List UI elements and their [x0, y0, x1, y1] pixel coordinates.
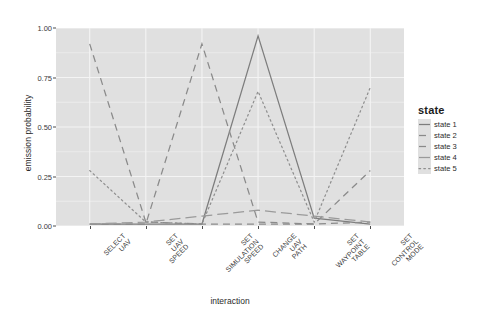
legend: state state 1state 2state 3state 4state … [418, 104, 457, 174]
x-tick-label: SETWAYPOINTTABLE [329, 232, 372, 275]
legend-item-label: state 3 [434, 142, 457, 151]
legend-item-4[interactable]: state 4 [418, 152, 457, 163]
x-tick-mark [146, 226, 147, 229]
series-line-1 [90, 36, 371, 224]
legend-item-3[interactable]: state 3 [418, 141, 457, 152]
legend-item-label: state 5 [434, 164, 457, 173]
legend-item-1[interactable]: state 1 [418, 119, 457, 130]
legend-key-line-icon [418, 141, 431, 152]
legend-items: state 1state 2state 3state 4state 5 [418, 119, 457, 174]
x-tick-mark [202, 226, 203, 229]
x-axis: SELECTUAVSETUAVSPEEDSETSIMULATIONSPEEDCH… [56, 226, 404, 296]
legend-item-label: state 1 [434, 120, 457, 129]
plot-panel [56, 28, 404, 226]
y-tick-label: 0.75 [26, 73, 52, 82]
y-tick-label: 0.00 [26, 222, 52, 231]
legend-key-line-icon [418, 163, 431, 174]
y-tick-label: 0.50 [26, 123, 52, 132]
legend-key-line-icon [418, 119, 431, 130]
legend-key-line-icon [418, 152, 431, 163]
x-tick-mark [314, 226, 315, 229]
y-tick-label: 1.00 [26, 24, 52, 33]
x-tick-mark [258, 226, 259, 229]
legend-item-5[interactable]: state 5 [418, 163, 457, 174]
x-axis-title: interaction [56, 296, 404, 306]
y-axis: 0.000.250.500.751.00 [0, 0, 52, 318]
y-tick-label: 0.25 [26, 172, 52, 181]
x-tick-label: SETCONTROLMODE [385, 232, 426, 273]
x-tick-label: SELECTUAV [102, 232, 132, 262]
x-tick-label: CHANGEUAVPATH [271, 232, 309, 270]
x-tick-label: SETSIMULATIONSPEED [219, 232, 266, 279]
chart-figure: emission probability 0.000.250.500.751.0… [0, 0, 480, 318]
x-tick-label: SETUAVSPEED [157, 232, 190, 265]
series-line-4 [90, 210, 371, 224]
series-line-3 [90, 44, 371, 224]
x-tick-mark [90, 226, 91, 229]
legend-key-line-icon [418, 130, 431, 141]
plot-lines [56, 28, 404, 226]
series-line-5 [90, 87, 371, 224]
legend-item-label: state 4 [434, 153, 457, 162]
legend-title: state [418, 104, 457, 116]
legend-item-label: state 2 [434, 131, 457, 140]
x-tick-mark [370, 226, 371, 229]
legend-item-2[interactable]: state 2 [418, 130, 457, 141]
